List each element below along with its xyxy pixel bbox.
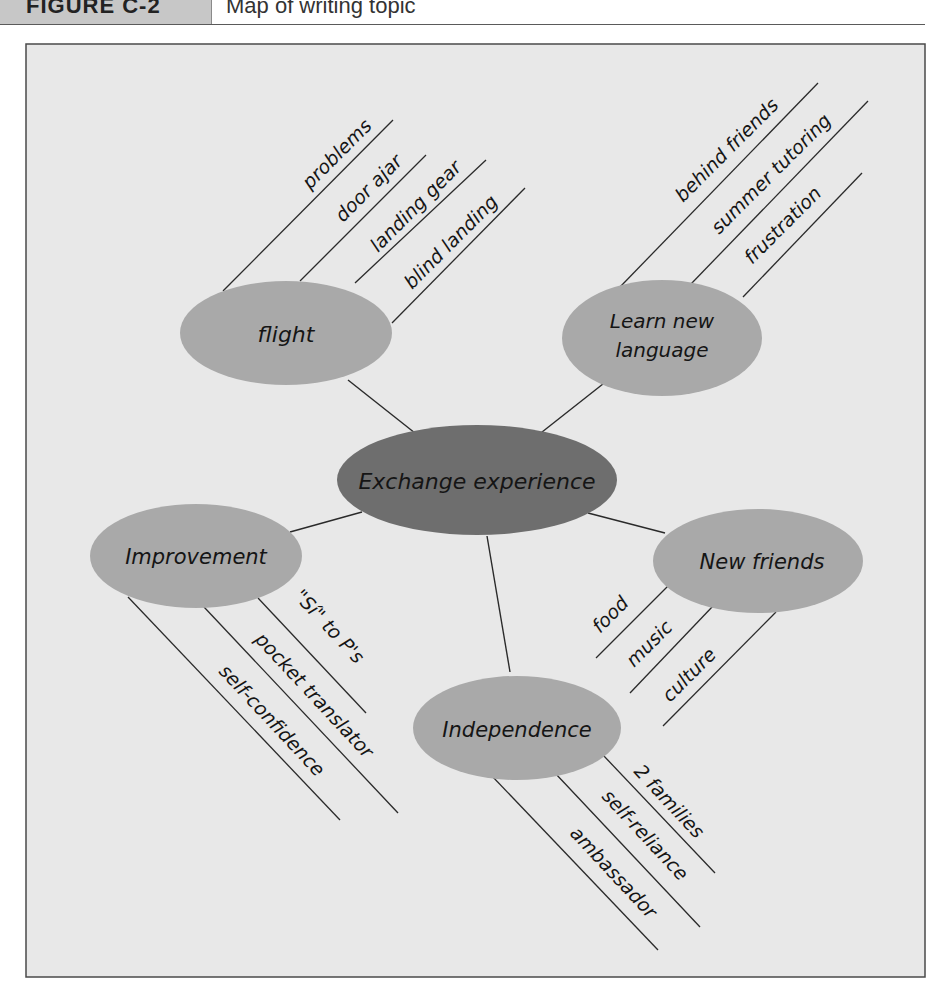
mind-map: flight Learn new language Exchange exper… [0, 0, 945, 997]
node-label-language-2: language [615, 338, 708, 362]
node-label-improvement: Improvement [125, 545, 267, 569]
node-label-language-1: Learn new [610, 309, 715, 333]
node-label-center: Exchange experience [358, 469, 595, 494]
node-label-flight: flight [258, 322, 316, 347]
node-label-independence: Independence [442, 718, 591, 742]
node-label-new-friends: New friends [700, 550, 825, 574]
